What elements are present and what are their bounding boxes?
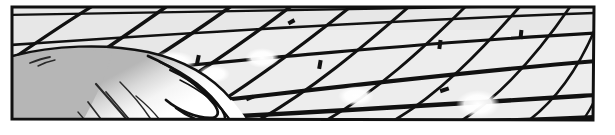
panel-artwork bbox=[0, 0, 615, 135]
sky-glare-d bbox=[338, 86, 374, 106]
sky-glare-e bbox=[456, 90, 500, 118]
sky-glare-c bbox=[245, 48, 279, 68]
manga-panel bbox=[0, 0, 615, 135]
